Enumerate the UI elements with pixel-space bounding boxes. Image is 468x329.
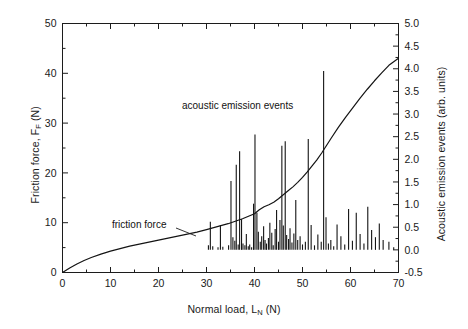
y-axis-left-title-unit: (N) (29, 106, 41, 124)
y-left-tick-label: 0 (51, 266, 57, 278)
x-tick-label: 20 (153, 277, 165, 289)
y-left-tick-label: 10 (45, 216, 57, 228)
x-tick-label: 50 (297, 277, 309, 289)
acoustic-emission-annotation: acoustic emission events (182, 100, 293, 111)
x-tick-label: 60 (345, 277, 357, 289)
acoustic-emission-spikes (208, 71, 393, 250)
x-tick-label: 0 (60, 277, 66, 289)
y-axis-left-title-text: Friction force, F (29, 129, 41, 204)
friction-acoustic-emission-chart: 01020304050607001020304050-0.50.00.51.01… (0, 0, 468, 329)
y-right-tick-label: -0.5 (405, 266, 423, 278)
y-right-tick-label: 2.5 (405, 130, 420, 142)
y-right-tick-label: 1.0 (405, 198, 420, 210)
y-right-tick-label: 3.0 (405, 108, 420, 120)
x-axis-title-unit: (N) (263, 303, 281, 315)
y-right-tick-label: 4.5 (405, 40, 420, 52)
x-axis-title: Normal load, LN (N) (0, 303, 468, 317)
y-right-tick-label: 4.0 (405, 62, 420, 74)
y-right-tick-label: 0.5 (405, 221, 420, 233)
y-right-tick-label: 3.5 (405, 85, 420, 97)
y-left-tick-label: 30 (45, 117, 57, 129)
y-left-tick-label: 40 (45, 67, 57, 79)
y-right-tick-label: 2.0 (405, 153, 420, 165)
plot-canvas: 01020304050607001020304050-0.50.00.51.01… (0, 0, 468, 329)
x-tick-label: 10 (105, 277, 117, 289)
y-axis-left-title-sub: F (34, 124, 43, 129)
x-axis-title-text: Normal load, L (187, 303, 257, 315)
y-right-tick-label: 1.5 (405, 176, 420, 188)
y-right-tick-label: 5.0 (405, 17, 420, 29)
x-tick-label: 40 (249, 277, 261, 289)
x-tick-label: 70 (393, 277, 405, 289)
y-left-tick-label: 20 (45, 167, 57, 179)
y-axis-right-title: Acoustic emission events (arb. units) (435, 54, 447, 254)
y-left-tick-label: 50 (45, 17, 57, 29)
friction-force-annotation: friction force (112, 219, 166, 230)
x-tick-label: 30 (201, 277, 213, 289)
y-right-tick-label: 0.0 (405, 244, 420, 256)
y-axis-left-title: Friction force, FF (N) (29, 75, 43, 235)
